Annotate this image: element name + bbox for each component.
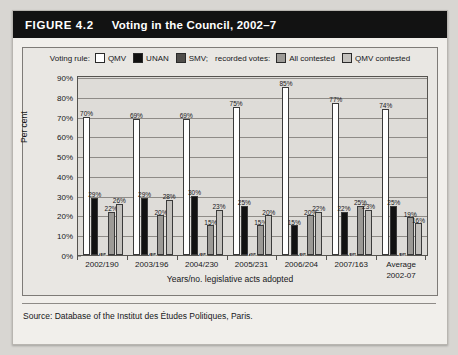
chart-panel: Voting rule: QMV UNAN SMV; recorded vote… <box>22 47 438 296</box>
source-note: Source: Database of the Institut des Étu… <box>23 311 253 321</box>
legend-item-smv: SMV; <box>176 53 208 63</box>
x-axis-category-label: 2003/196 <box>135 260 168 271</box>
bar: 15% <box>257 225 264 255</box>
bar: 28% <box>166 200 173 255</box>
bar: 1% <box>149 253 156 255</box>
chart-legend: Voting rule: QMV UNAN SMV; recorded vote… <box>23 53 437 63</box>
bar-value-label: 74% <box>379 103 392 110</box>
bar-value-label: 23% <box>212 204 225 211</box>
y-axis-tick-label: 80% <box>57 93 73 102</box>
bar: 15% <box>207 225 214 255</box>
bar: 29% <box>91 198 98 255</box>
y-axis-tick-label: 60% <box>57 133 73 142</box>
bar: 29% <box>141 198 148 255</box>
y-axis: 0%10%20%30%40%50%60%70%80%90% <box>39 76 75 256</box>
bar: 25% <box>357 206 364 255</box>
y-axis-tick-label: 50% <box>57 153 73 162</box>
legend-swatch-all-contested <box>276 53 286 63</box>
bar-value-label: 20% <box>262 210 275 217</box>
y-axis-tick-label: 90% <box>57 74 73 83</box>
bar: 20% <box>307 215 314 255</box>
bar-group: 70%29%1%22%26% <box>78 77 128 255</box>
x-axis-category-label: 2006/204 <box>285 260 318 271</box>
legend-recorded-votes-label: recorded votes: <box>215 54 270 63</box>
bar-value-label: 30% <box>188 190 201 197</box>
bar-value-label: 23% <box>362 204 375 211</box>
x-axis-category-label: 2005/231 <box>235 260 268 271</box>
y-axis-title: Per cent <box>19 111 29 143</box>
x-axis-category-label: 2007/163 <box>335 260 368 271</box>
bar: 30% <box>191 196 198 255</box>
legend-item-all-contested: All contested <box>276 53 335 63</box>
figure-card: FIGURE 4.2 Voting in the Council, 2002–7… <box>12 10 448 345</box>
bar: 16% <box>415 223 422 255</box>
bar: 20% <box>157 215 164 255</box>
bar-value-label: 70% <box>80 111 93 118</box>
bar: 1% <box>399 253 406 255</box>
y-axis-tick-label: 20% <box>57 212 73 221</box>
bar: 1% <box>349 253 356 255</box>
bar: 23% <box>365 210 372 255</box>
bar: 22% <box>315 212 322 256</box>
bar: 85% <box>282 87 289 255</box>
bar-value-label: 26% <box>113 198 126 205</box>
bar-value-label: 25% <box>238 200 251 207</box>
y-axis-tick-label: 0% <box>61 252 73 261</box>
y-axis-tick-label: 30% <box>57 192 73 201</box>
bar-value-label: 28% <box>163 194 176 201</box>
bar-value-label: 22% <box>312 206 325 213</box>
x-axis-category-label: 2002/190 <box>85 260 118 271</box>
legend-label-qmv: QMV <box>108 54 126 63</box>
legend-label-unan: UNAN <box>146 54 169 63</box>
legend-swatch-qmv-contested <box>342 53 352 63</box>
figure-number: FIGURE 4.2 <box>25 19 94 31</box>
legend-item-qmv-contested: QMV contested <box>342 53 410 63</box>
bar-group: 77%22%1%25%23% <box>327 77 377 255</box>
bar-group: 69%29%1%20%28% <box>128 77 178 255</box>
bar: 70% <box>83 117 90 255</box>
bar: 74% <box>382 109 389 255</box>
figure-title: Voting in the Council, 2002–7 <box>112 19 277 31</box>
bar: 20% <box>265 215 272 255</box>
bar: 1% <box>199 253 206 255</box>
bar: 25% <box>390 206 397 255</box>
bar: 77% <box>332 103 339 255</box>
legend-label-smv: SMV; <box>189 54 208 63</box>
bar: 0% <box>249 253 256 255</box>
bar: 1% <box>99 253 106 255</box>
bar-value-label: 75% <box>230 101 243 108</box>
bar-group: 74%25%1%19%16% <box>377 77 427 255</box>
x-axis-category-label: 2004/230 <box>185 260 218 271</box>
legend-swatch-unan <box>133 53 143 63</box>
bar: 69% <box>183 119 190 255</box>
legend-item-unan: UNAN <box>133 53 169 63</box>
bar-value-label: 16% <box>412 218 425 225</box>
legend-voting-rule-label: Voting rule: <box>50 54 90 63</box>
bar: 69% <box>133 119 140 255</box>
bar: 1% <box>299 253 306 255</box>
bar-value-label: 29% <box>88 192 101 199</box>
bar-value-label: 25% <box>387 200 400 207</box>
bar-group: 85%15%1%20%22% <box>277 77 327 255</box>
legend-label-qmv-contested: QMV contested <box>355 54 410 63</box>
bar-value-label: 22% <box>338 206 351 213</box>
legend-swatch-smv <box>176 53 186 63</box>
source-divider <box>22 303 436 304</box>
bar-value-label: 85% <box>279 81 292 88</box>
bar-group: 75%25%0%15%20% <box>228 77 278 255</box>
y-axis-tick-label: 70% <box>57 113 73 122</box>
figure-title-bar: FIGURE 4.2 Voting in the Council, 2002–7 <box>13 11 447 38</box>
bar: 26% <box>116 204 123 255</box>
bar-group: 69%30%1%15%23% <box>178 77 228 255</box>
bar: 22% <box>108 212 115 256</box>
legend-swatch-qmv <box>95 53 105 63</box>
legend-label-all-contested: All contested <box>289 54 335 63</box>
plot-area: 70%29%1%22%26%69%29%1%20%28%69%30%1%15%2… <box>77 76 428 256</box>
bar: 22% <box>341 212 348 256</box>
legend-item-qmv: QMV <box>95 53 126 63</box>
bar-value-label: 15% <box>288 220 301 227</box>
bar: 15% <box>291 225 298 255</box>
y-axis-tick-label: 40% <box>57 172 73 181</box>
bar-value-label: 69% <box>180 113 193 120</box>
bar-value-label: 77% <box>329 97 342 104</box>
